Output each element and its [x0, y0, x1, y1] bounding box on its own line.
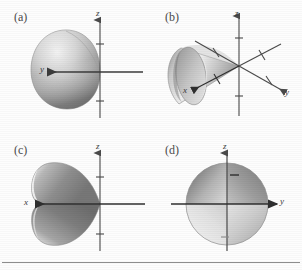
cone-surface-b	[168, 45, 239, 107]
figure-canvas: (a)	[0, 0, 302, 270]
axis-label-x-b: x	[183, 85, 187, 95]
axis-label-z-c: z	[96, 141, 100, 151]
axis-label-y-a: y	[40, 64, 44, 74]
axis-label-y-d: y	[280, 196, 284, 206]
axis-label-x-c: x	[24, 197, 28, 207]
axis-label-z-a: z	[96, 8, 100, 18]
panel-c-label: (c)	[14, 143, 27, 158]
axis-label-z-d: z	[223, 141, 227, 151]
panel-b: (b)	[151, 0, 302, 133]
panel-d-label: (d)	[165, 143, 179, 158]
figure-bottom-rule	[2, 262, 300, 263]
axis-label-y-b: y	[285, 87, 289, 97]
panel-c: (c)	[0, 133, 151, 263]
panel-a: (a)	[0, 0, 151, 133]
panel-a-label: (a)	[14, 10, 27, 25]
axis-label-z-b: z	[235, 8, 239, 18]
panel-b-label: (b)	[165, 10, 179, 25]
panel-d: (d)	[151, 133, 302, 263]
